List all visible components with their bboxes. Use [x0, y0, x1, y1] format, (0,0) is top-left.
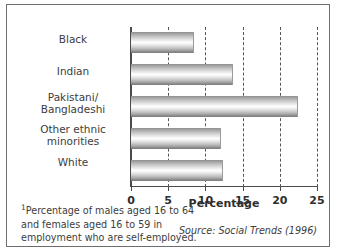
- category-label-line: minorities: [21, 136, 125, 148]
- bar-white[interactable]: [131, 160, 223, 181]
- category-label-line: Pakistani/: [21, 92, 125, 104]
- tick-mark-25: [317, 187, 318, 191]
- bar-other-ethnic-minorities[interactable]: [131, 128, 221, 149]
- tick-mark-15: [243, 187, 244, 191]
- footnote-line-1: Percentage of males aged 16 to 64: [26, 205, 194, 216]
- category-label-pakistani-bangladeshi: Pakistani/ Bangladeshi: [21, 92, 125, 115]
- x-axis-line: [130, 186, 317, 187]
- bar-black[interactable]: [131, 32, 194, 53]
- category-label-black: Black: [21, 34, 125, 46]
- category-label-indian: Indian: [21, 66, 125, 78]
- category-label-white: White: [21, 157, 125, 169]
- figure-frame: Black Indian Pakistani/ Bangladeshi Othe…: [6, 4, 330, 247]
- gridline-25: [317, 27, 318, 187]
- cut-off-title-sliver: [18, 0, 178, 3]
- source-note: Source: Social Trends (1996): [179, 225, 317, 236]
- bar-indian[interactable]: [131, 64, 233, 85]
- tick-mark-20: [280, 187, 281, 191]
- category-label-line: Indian: [21, 66, 125, 78]
- category-label-line: Other ethnic: [21, 124, 125, 136]
- tick-mark-10: [205, 187, 206, 191]
- footnote-line-3: employment who are self-employed.: [21, 232, 197, 243]
- footnote-line-2: and females aged 16 to 59 in: [21, 219, 162, 230]
- category-label-line: Black: [21, 34, 125, 46]
- footnote: 1Percentage of males aged 16 to 64 and f…: [21, 201, 199, 245]
- bar-pakistani-bangladeshi[interactable]: [131, 96, 298, 117]
- plot-area: 0510152025: [131, 27, 317, 187]
- category-label-other-ethnic-minorities: Other ethnic minorities: [21, 124, 125, 147]
- category-label-line: White: [21, 157, 125, 169]
- tick-mark-0: [131, 187, 132, 191]
- category-label-line: Bangladeshi: [21, 104, 125, 116]
- tick-mark-5: [168, 187, 169, 191]
